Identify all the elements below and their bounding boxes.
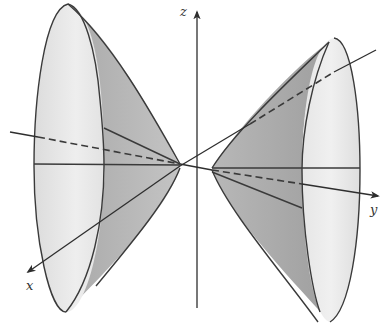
- x-axis-label: x: [26, 278, 34, 293]
- y-axis-left-solid: [10, 132, 38, 137]
- y-axis-label: y: [369, 202, 378, 217]
- double-cone-diagram: z y x: [0, 0, 384, 328]
- y-axis-center: [180, 164, 212, 170]
- right-nappe: [212, 38, 360, 322]
- left-horizontal-diameter: [34, 164, 180, 165]
- z-axis-label: z: [179, 4, 187, 19]
- left-nappe: [34, 4, 180, 312]
